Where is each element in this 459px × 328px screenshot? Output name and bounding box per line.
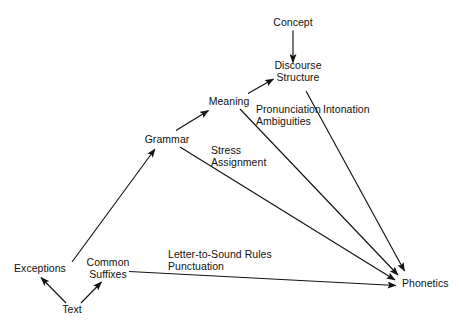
node-text[interactable]: Text: [62, 304, 81, 316]
node-discourse-structure-line-1: Discourse: [274, 60, 321, 72]
node-phonetics[interactable]: Phonetics: [402, 278, 449, 290]
edge-text-to-exceptions: [41, 278, 66, 304]
node-exceptions-line-1: Exceptions: [14, 263, 66, 275]
edge-text-to-common-suffixes: [81, 282, 102, 303]
edge-label-intonation-line-1: Intonation: [323, 104, 370, 116]
edge-label-letter-to-sound-line-1: Letter-to-Sound Rules: [168, 249, 272, 261]
node-concept-line-1: Concept: [273, 17, 312, 29]
node-concept[interactable]: Concept: [273, 17, 312, 29]
edge-label-pronunciation-ambiguities: Pronunciation Ambiguities: [256, 104, 321, 127]
edge-label-intonation: Intonation: [323, 104, 370, 116]
node-exceptions[interactable]: Exceptions: [14, 263, 66, 275]
node-discourse-structure-line-2: Structure: [274, 72, 321, 84]
edge-suffixes-to-phonetics: [129, 272, 396, 286]
node-common-suffixes-line-2: Suffixes: [87, 269, 130, 281]
edge-label-pronunciation-ambiguities-line-2: Ambiguities: [256, 116, 321, 128]
node-grammar-line-1: Grammar: [145, 134, 190, 146]
edge-label-letter-to-sound: Letter-to-Sound Rules Punctuation: [168, 249, 272, 272]
node-grammar[interactable]: Grammar: [145, 134, 190, 146]
node-phonetics-line-1: Phonetics: [402, 278, 449, 290]
edge-label-letter-to-sound-line-2: Punctuation: [168, 261, 272, 273]
node-common-suffixes[interactable]: Common Suffixes: [87, 257, 130, 280]
node-text-line-1: Text: [62, 304, 81, 316]
edge-label-stress-assignment: Stress Assignment: [211, 145, 266, 168]
node-discourse-structure[interactable]: Discourse Structure: [274, 60, 321, 83]
edge-grammar-to-meaning: [176, 111, 209, 131]
edge-meaning-to-discourse: [248, 79, 274, 94]
node-meaning[interactable]: Meaning: [209, 96, 250, 108]
node-common-suffixes-line-1: Common: [87, 257, 130, 269]
edge-label-stress-assignment-line-1: Stress: [211, 145, 266, 157]
node-meaning-line-1: Meaning: [209, 96, 250, 108]
edge-label-stress-assignment-line-2: Assignment: [211, 157, 266, 169]
edge-label-pronunciation-ambiguities-line-1: Pronunciation: [256, 104, 321, 116]
edge-common-suffixes-to-grammar: [72, 149, 155, 262]
diagram-canvas: Concept Discourse Structure Meaning Gram…: [0, 0, 459, 328]
